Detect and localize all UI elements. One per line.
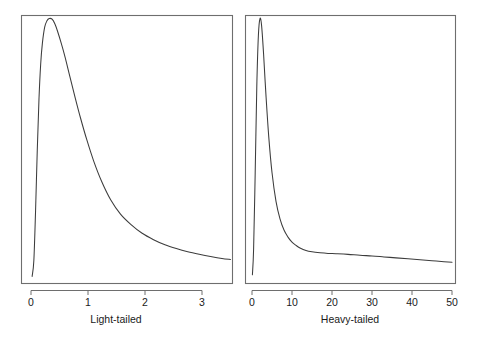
panel-heavy-tailed: 01020304050 Heavy-tailed — [240, 0, 479, 338]
x-axis-tick-label: 0 — [249, 296, 255, 308]
x-axis-tick-label: 0 — [28, 296, 34, 308]
panel-light-tailed: 0123 Light-tailed — [0, 0, 239, 338]
x-axis-ticks-heavy — [252, 291, 452, 296]
x-axis-tick-labels-heavy: 01020304050 — [249, 296, 458, 308]
light-tailed-plot: 0123 Light-tailed — [0, 0, 239, 338]
x-axis-tick-label: 1 — [85, 296, 91, 308]
x-axis-tick-label: 3 — [199, 296, 205, 308]
heavy-tailed-plot: 01020304050 Heavy-tailed — [240, 0, 479, 338]
density-curve-light-tailed — [32, 18, 230, 276]
x-axis-tick-label: 30 — [366, 296, 378, 308]
figure-container: 0123 Light-tailed 01020304050 Heavy-tail… — [0, 0, 479, 338]
plot-frame-light — [22, 16, 233, 284]
density-curve-heavy-tailed — [252, 18, 452, 275]
x-axis-tick-label: 40 — [406, 296, 418, 308]
x-axis-tick-label: 10 — [286, 296, 298, 308]
x-axis-tick-labels-light: 0123 — [28, 296, 205, 308]
plot-frame-heavy — [246, 16, 456, 284]
x-axis-tick-label: 50 — [446, 296, 458, 308]
x-axis-ticks-light — [31, 291, 202, 296]
x-axis-tick-label: 2 — [142, 296, 148, 308]
x-axis-title-light: Light-tailed — [90, 313, 142, 325]
x-axis-title-heavy: Heavy-tailed — [321, 313, 380, 325]
x-axis-tick-label: 20 — [326, 296, 338, 308]
